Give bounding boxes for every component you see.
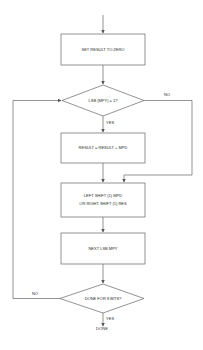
add-text: RESULT = RESULT + MPD [61, 133, 145, 163]
add-label: RESULT = RESULT + MPD [79, 144, 128, 152]
set-result-label: SET RESULT TO ZERO [82, 46, 125, 54]
lsb-check-text: LSB (MPY) = 1? [70, 88, 136, 113]
set-result-text: SET RESULT TO ZERO [61, 34, 145, 65]
shift-label-line1: LEFT SHIFT (1) MPD [84, 192, 122, 200]
shift-label-line2: OR RIGHT SHIFT (1) RES [79, 200, 126, 208]
shift-text: LEFT SHIFT (1) MPD OR RIGHT SHIFT (1) RE… [61, 183, 145, 217]
done-terminal-label: DONE [96, 327, 108, 332]
next-lsb-text: NEXT LSB MPY [61, 233, 145, 264]
done-no-label: NO [32, 292, 38, 297]
next-lsb-label: NEXT LSB MPY [88, 245, 117, 253]
done-yes-label: YES [106, 317, 114, 322]
arrow-done-no-loop [13, 101, 61, 299]
lsb-check-label: LSB (MPY) = 1? [88, 97, 117, 105]
lsb-yes-label: YES [106, 121, 114, 126]
lsb-no-label: NO [164, 93, 170, 98]
done-check-text: DONE FOR 8 BITS? [70, 287, 136, 310]
done-check-label: DONE FOR 8 BITS? [85, 295, 122, 303]
